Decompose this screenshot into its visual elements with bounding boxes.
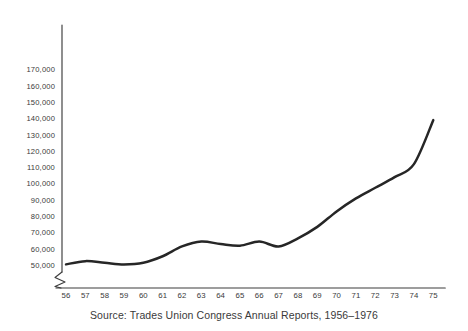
x-axis-tick-label: 57 <box>81 291 90 300</box>
line-chart: 170,000160,000150,000140,000130,000120,0… <box>0 0 468 331</box>
x-axis-tick-label: 58 <box>100 291 109 300</box>
y-axis-tick-label: 100,000 <box>27 179 56 188</box>
x-axis-tick-label: 56 <box>62 291 71 300</box>
chart-caption: Source: Trades Union Congress Annual Rep… <box>0 309 468 321</box>
y-axis-tick-label: 110,000 <box>27 163 55 172</box>
x-axis-tick-label: 64 <box>216 291 225 300</box>
x-axis-tick-label: 69 <box>313 291 322 300</box>
y-axis-tick-label: 50,000 <box>31 261 55 270</box>
y-axis-tick-label: 90,000 <box>31 196 55 205</box>
axis-break-icon <box>55 272 65 288</box>
chart-container: 170,000160,000150,000140,000130,000120,0… <box>0 0 468 331</box>
y-axis-tick-labels: 170,000160,000150,000140,000130,000120,0… <box>27 65 56 270</box>
y-axis-tick-label: 170,000 <box>27 65 56 74</box>
y-axis-tick-label: 60,000 <box>31 245 55 254</box>
y-axis-tick-label: 130,000 <box>27 131 56 140</box>
x-axis-tick-label: 68 <box>294 291 303 300</box>
x-axis-tick-label: 62 <box>178 291 187 300</box>
y-axis-tick-label: 70,000 <box>31 228 55 237</box>
data-series-line <box>66 120 433 264</box>
y-axis-tick-label: 140,000 <box>27 114 56 123</box>
x-axis-tick-label: 74 <box>410 291 419 300</box>
y-axis-tick-label: 120,000 <box>27 147 56 156</box>
x-axis-tick-label: 66 <box>255 291 264 300</box>
x-axis-tick-label: 60 <box>139 291 148 300</box>
x-axis-tick-label: 63 <box>197 291 206 300</box>
x-axis-tick-label: 61 <box>158 291 167 300</box>
x-axis-tick-labels: 5657585960616263646566676869707172737475 <box>62 291 439 300</box>
y-axis-tick-label: 150,000 <box>27 98 56 107</box>
x-axis-tick-label: 75 <box>429 291 438 300</box>
x-axis-tick-label: 72 <box>371 291 380 300</box>
x-axis-tick-label: 73 <box>390 291 399 300</box>
y-axis-tick-label: 160,000 <box>27 82 56 91</box>
x-axis-tick-label: 65 <box>236 291 245 300</box>
x-axis-tick-label: 71 <box>352 291 361 300</box>
x-axis-tick-label: 67 <box>274 291 283 300</box>
y-axis-tick-label: 80,000 <box>31 212 55 221</box>
x-axis-tick-label: 59 <box>120 291 129 300</box>
x-axis-tick-label: 70 <box>332 291 341 300</box>
